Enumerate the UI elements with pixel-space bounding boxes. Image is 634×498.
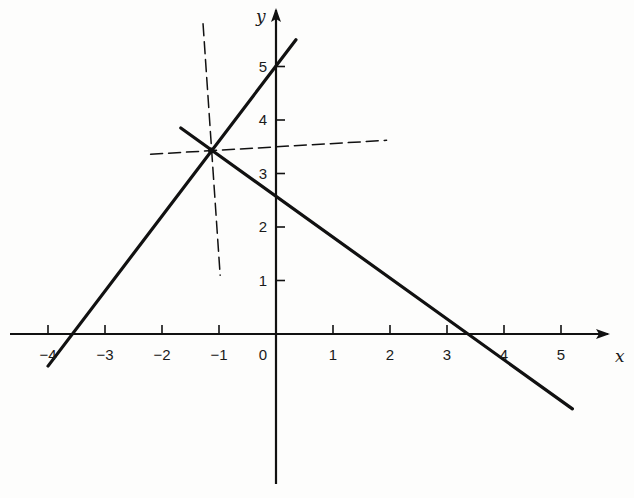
x-tick-label: 2: [386, 346, 394, 363]
intersection-point: [208, 147, 214, 153]
solid-lines: [48, 40, 572, 409]
descending-line: [181, 128, 573, 409]
dashed-guides: [151, 24, 387, 275]
x-tick-label: 3: [443, 346, 451, 363]
y-tick-label: 3: [259, 165, 267, 182]
tick-labels: xy−4−3−2−112345012345: [39, 6, 625, 366]
y-tick-label: 4: [259, 111, 267, 128]
x-axis-label: x: [615, 346, 625, 366]
axes: [10, 10, 608, 484]
x-tick-label: 5: [557, 346, 565, 363]
coordinate-plane-figure: xy−4−3−2−112345012345: [0, 0, 634, 498]
x-tick-label: 1: [329, 346, 337, 363]
x-tick-label: 4: [500, 346, 508, 363]
steep-ascending-line: [48, 40, 296, 366]
y-tick-label: 1: [259, 272, 267, 289]
x-tick-label: −2: [153, 346, 170, 363]
x-tick-label: −1: [210, 346, 227, 363]
x-tick-label: −4: [39, 346, 56, 363]
dashed-horizontal-guide: [151, 140, 387, 154]
x-tick-label: −3: [96, 346, 113, 363]
plot-canvas: xy−4−3−2−112345012345: [0, 0, 634, 498]
y-tick-label: 2: [259, 218, 267, 235]
y-axis-label: y: [255, 6, 266, 26]
y-tick-label: 5: [259, 58, 267, 75]
origin-label: 0: [259, 346, 267, 363]
tick-marks: [48, 67, 561, 335]
